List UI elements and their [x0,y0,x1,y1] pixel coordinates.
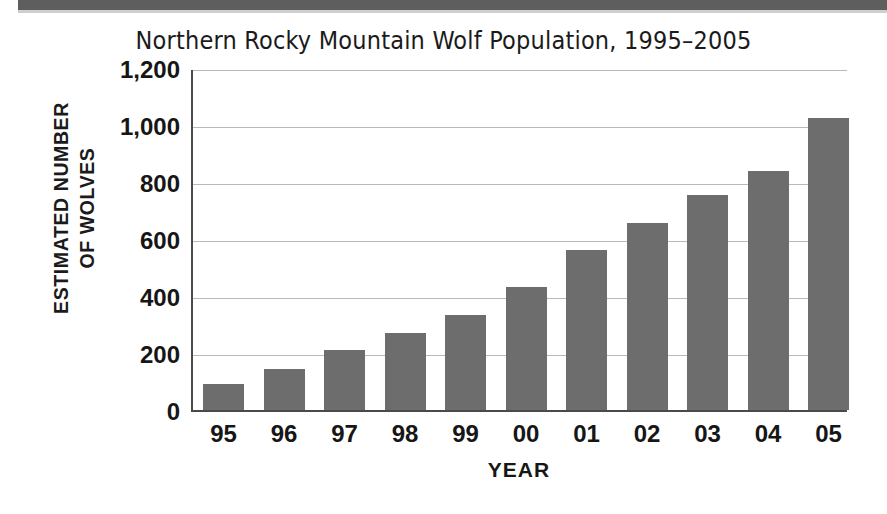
bottom-margin [0,486,887,514]
y-axis-tick-label: 200 [60,343,180,367]
bar [627,223,668,410]
y-axis-tick-label: 400 [60,286,180,310]
x-axis-tick-label: 04 [738,420,799,448]
bar [687,195,728,410]
bar [445,315,486,410]
chart-page: Northern Rocky Mountain Wolf Population,… [0,0,887,514]
x-axis-tick-label: 99 [435,420,496,448]
y-axis-tick-label: 1,200 [60,58,180,82]
bar [748,171,789,410]
bar [385,333,426,410]
y-axis-tick-label: 1,000 [60,115,180,139]
x-axis-tick-label: 97 [314,420,375,448]
bar [264,369,305,410]
bar [566,250,607,410]
bar [808,118,849,410]
y-axis-tick-label: 600 [60,229,180,253]
x-axis-line [191,410,847,412]
x-axis-tick-label: 00 [496,420,557,448]
y-axis-tick-label: 800 [60,172,180,196]
bar [203,384,244,410]
plot-area [191,70,847,412]
bar-series [191,70,847,410]
x-axis-tick-label: 95 [193,420,254,448]
x-axis-tick-label: 03 [677,420,738,448]
x-axis-title: YEAR [191,458,847,482]
x-axis-tick-label: 01 [556,420,617,448]
x-axis-tick-label: 05 [798,420,859,448]
x-axis-tick-label: 02 [617,420,678,448]
bar [324,350,365,410]
x-axis-tick-label: 98 [375,420,436,448]
bar [506,287,547,410]
x-axis-tick-label: 96 [254,420,315,448]
y-axis-tick-label: 0 [60,400,180,424]
